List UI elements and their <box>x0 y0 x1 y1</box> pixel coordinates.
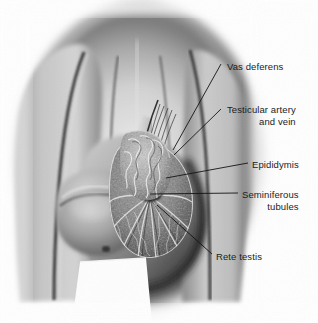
label-testicular-artery-line1: Testicular artery <box>227 104 296 115</box>
label-seminiferous-line1: Seminiferous <box>242 189 299 200</box>
anatomy-figure: Vas deferens Testicular artery and vein … <box>0 0 318 323</box>
label-testicular-artery-and-vein: Testicular artery and vein <box>227 104 296 127</box>
label-testicular-artery-line2: and vein <box>227 116 296 128</box>
label-seminiferous-tubules: Seminiferous tubules <box>242 189 299 212</box>
label-rete-testis-text: Rete testis <box>216 251 262 262</box>
label-vas-deferens-text: Vas deferens <box>227 61 283 72</box>
label-epididymis: Epididymis <box>252 159 299 171</box>
label-epididymis-text: Epididymis <box>252 159 299 170</box>
label-rete-testis: Rete testis <box>216 251 262 263</box>
label-vas-deferens: Vas deferens <box>227 61 283 73</box>
label-seminiferous-line2: tubules <box>242 201 299 213</box>
